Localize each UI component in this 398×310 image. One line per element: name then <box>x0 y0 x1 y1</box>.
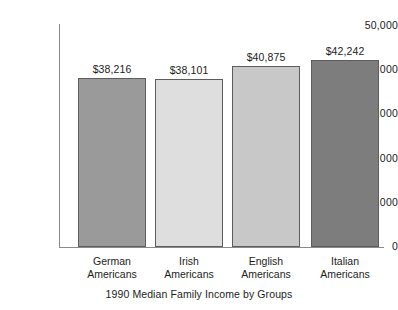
x-axis-category-label: ItalianAmericans <box>291 255 398 281</box>
bar <box>232 66 300 247</box>
bar <box>311 60 379 247</box>
x-axis-category-label-line: Americans <box>291 268 398 281</box>
chart-caption: 1990 Median Family Income by Groups <box>0 288 398 300</box>
plot-area: 50,00040,00030,00020,00010,0000 $38,216$… <box>0 0 398 260</box>
x-axis-line <box>59 247 384 248</box>
y-axis-tick-label: 50,000 <box>344 20 398 31</box>
bar <box>78 78 146 247</box>
y-axis-line <box>59 24 60 248</box>
bar-chart-figure: 50,00040,00030,00020,00010,0000 $38,216$… <box>0 0 398 310</box>
bar-value-label: $42,242 <box>295 45 395 57</box>
bar-value-label: $38,101 <box>139 64 239 76</box>
bar <box>155 79 223 247</box>
x-axis-category-label-line: Italian <box>291 255 398 268</box>
